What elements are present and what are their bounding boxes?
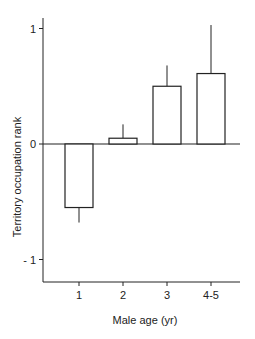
y-tick-label: 1 bbox=[30, 23, 36, 35]
y-tick-label: 0 bbox=[30, 138, 36, 150]
x-tick-label: 3 bbox=[164, 289, 170, 301]
bar-4-5 bbox=[197, 74, 225, 144]
y-tick-label: - 1 bbox=[23, 254, 36, 266]
x-tick-label: 4-5 bbox=[203, 289, 219, 301]
bar-2 bbox=[109, 138, 137, 144]
x-axis-title: Male age (yr) bbox=[113, 314, 178, 326]
x-tick-label: 1 bbox=[76, 289, 82, 301]
x-tick-label: 2 bbox=[120, 289, 126, 301]
bars bbox=[65, 25, 225, 223]
y-axis-title: Territory occupation rank bbox=[11, 116, 23, 237]
bar-chart: 10- 11234-5Male age (yr)Territory occupa… bbox=[0, 0, 255, 339]
labels: 10- 11234-5Male age (yr)Territory occupa… bbox=[11, 23, 219, 327]
bar-3 bbox=[153, 86, 181, 144]
bar-1 bbox=[65, 144, 93, 208]
